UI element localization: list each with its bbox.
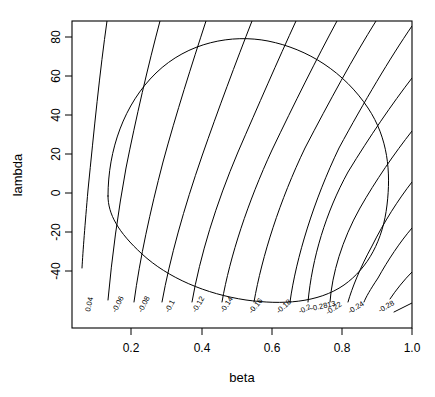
- contour-line--0.24: [364, 228, 412, 302]
- contour-line--0.12: [192, 21, 296, 302]
- contour-line--0.22: [348, 182, 412, 302]
- contour-line--0.14: [222, 21, 337, 302]
- y-tick-label-5: -20: [49, 223, 63, 241]
- x-tick-label-2: 0.6: [264, 341, 281, 355]
- x-axis-title: beta: [229, 370, 255, 385]
- y-axis-ticks: [65, 37, 72, 271]
- contour-label-12: -0.28: [377, 298, 396, 314]
- contour-label-6: -0.16: [247, 296, 265, 315]
- contour-plot-figure: 0.2 0.4 0.6 0.8 1.0 80 60 40 20 0 -20 -4…: [0, 0, 435, 397]
- y-tick-label-1: 60: [49, 69, 63, 83]
- y-tick-label-6: -40: [49, 262, 63, 280]
- x-tick-label-4: 1.0: [404, 341, 421, 355]
- plot-frame: [72, 21, 412, 328]
- contour-line-0.04: [82, 21, 107, 268]
- confidence-region-ellipse: [108, 39, 389, 303]
- y-tick-label-0: 80: [49, 30, 63, 44]
- y-axis-title: lambda: [10, 153, 25, 196]
- y-tick-label-3: 20: [49, 147, 63, 161]
- contour-line--0.18: [290, 26, 412, 302]
- contour-label-1: -0.06: [110, 295, 126, 314]
- x-tick-label-0: 0.2: [123, 341, 140, 355]
- y-tick-label-2: 40: [49, 108, 63, 122]
- contour-line--0.2813: [330, 131, 412, 302]
- contour-line--0.08: [134, 21, 206, 302]
- x-axis-ticks: [131, 328, 412, 335]
- contour-line--0.2: [308, 78, 412, 302]
- x-tick-label-3: 0.8: [334, 341, 351, 355]
- plot-canvas: 0.2 0.4 0.6 0.8 1.0 80 60 40 20 0 -20 -4…: [0, 0, 435, 397]
- contour-label-2: -0.08: [136, 295, 152, 314]
- contour-line--0.1: [162, 21, 252, 302]
- contour-line-stub: [394, 303, 412, 312]
- confidence-region-curve-group: [108, 39, 389, 303]
- contour-label-3: -0.1: [163, 298, 177, 314]
- y-tick-label-4: 0: [49, 189, 63, 196]
- contour-line--0.06: [108, 21, 160, 300]
- x-tick-label-1: 0.4: [194, 341, 211, 355]
- contour-line--0.28: [390, 272, 412, 299]
- contour-label-0: 0.04: [83, 296, 95, 312]
- contour-label-11: -0.24: [346, 299, 365, 316]
